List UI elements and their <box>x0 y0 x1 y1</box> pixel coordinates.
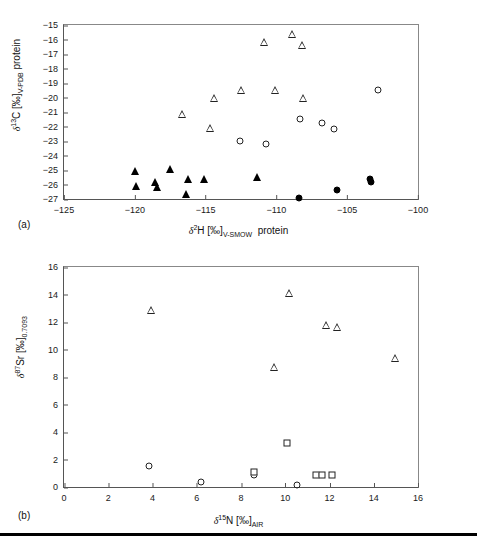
data-point-open-triangle <box>288 30 296 38</box>
plot-area-a: −15−16−17−18−19−20−21−22−23−24−25−26−27−… <box>63 24 419 200</box>
data-point-open-circle <box>198 479 205 486</box>
x-tick-label: 16 <box>413 487 423 503</box>
data-point-open-circle <box>297 116 304 123</box>
panel-label-b: (b) <box>18 510 30 521</box>
data-point-open-triangle <box>178 110 186 118</box>
x-tick-label: 2 <box>106 487 111 503</box>
data-point-open-triangle <box>260 38 268 46</box>
data-point-filled-triangle <box>166 165 174 173</box>
data-point-filled-triangle <box>253 173 261 181</box>
x-axis-label-a: δ2H [‰]V-SMOW protein <box>0 224 477 238</box>
x-tick-label: −125 <box>54 199 74 215</box>
y-tick-label: 16 <box>48 263 64 272</box>
data-point-open-triangle <box>237 86 245 94</box>
x-tick-label: −120 <box>125 199 145 215</box>
figure-container: −15−16−17−18−19−20−21−22−23−24−25−26−27−… <box>0 0 477 551</box>
data-point-open-triangle <box>270 363 278 371</box>
data-point-open-circle <box>146 463 153 470</box>
y-tick-label: −26 <box>43 180 64 189</box>
y-tick-label: −22 <box>43 122 64 131</box>
y-tick-label: −19 <box>43 79 64 88</box>
y-tick-label: −15 <box>43 21 64 30</box>
y-tick-label: 10 <box>48 345 64 354</box>
y-tick-label: 12 <box>48 318 64 327</box>
y-tick-label: −23 <box>43 137 64 146</box>
y-tick-label: −17 <box>43 50 64 59</box>
x-tick-label: 0 <box>61 487 66 503</box>
data-point-open-square <box>251 468 258 475</box>
data-point-open-circle <box>236 138 243 145</box>
y-tick-label: 2 <box>53 455 64 464</box>
data-point-open-circle <box>263 140 270 147</box>
x-tick-label: 6 <box>194 487 199 503</box>
y-tick-label: −24 <box>43 151 64 160</box>
data-point-open-circle <box>375 87 382 94</box>
y-tick-label: 14 <box>48 290 64 299</box>
x-tick-label: 4 <box>150 487 155 503</box>
data-point-open-triangle <box>322 321 330 329</box>
x-tick-label: −115 <box>196 199 216 215</box>
x-axis-label-b: δ15N [‰]AIR <box>0 514 477 528</box>
data-point-open-circle <box>318 119 325 126</box>
y-tick-label: −16 <box>43 35 64 44</box>
data-point-open-square <box>318 471 325 478</box>
y-axis-label-b: δ87Sr [‰]0.7093 <box>14 277 28 417</box>
x-tick-label: −110 <box>267 199 287 215</box>
data-point-open-triangle <box>299 94 307 102</box>
y-axis-label-a: δ13C [‰]V-PDB protein <box>10 15 24 155</box>
panel-b: 02468101214160246810121416 δ87Sr [‰]0.70… <box>0 240 477 530</box>
data-point-open-triangle <box>210 94 218 102</box>
y-tick-label: −21 <box>43 108 64 117</box>
data-point-open-triangle <box>333 323 341 331</box>
x-tick-label: 14 <box>369 487 379 503</box>
plot-area-b: 02468101214160246810121416 <box>63 266 419 488</box>
x-tick-label: 8 <box>238 487 243 503</box>
data-point-filled-circle <box>333 187 340 194</box>
panel-a: −15−16−17−18−19−20−21−22−23−24−25−26−27−… <box>0 0 477 240</box>
data-point-open-triangle <box>391 354 399 362</box>
data-point-filled-triangle <box>153 183 161 191</box>
data-point-filled-triangle <box>132 182 140 190</box>
data-point-open-triangle <box>298 41 306 49</box>
data-point-open-triangle <box>285 289 293 297</box>
data-point-filled-circle <box>367 179 374 186</box>
y-tick-label: −25 <box>43 166 64 175</box>
data-point-open-circle <box>294 481 301 488</box>
data-point-filled-triangle <box>200 175 208 183</box>
data-point-filled-triangle <box>131 167 139 175</box>
panel-label-a: (a) <box>18 219 30 230</box>
data-point-open-square <box>284 440 291 447</box>
y-tick-label: 6 <box>53 400 64 409</box>
y-tick-label: −20 <box>43 93 64 102</box>
data-point-open-triangle <box>206 124 214 132</box>
x-tick-label: 12 <box>324 487 334 503</box>
data-point-open-square <box>328 471 335 478</box>
data-point-filled-circle <box>296 195 303 202</box>
data-point-filled-triangle <box>182 190 190 198</box>
x-tick-label: −105 <box>337 199 357 215</box>
data-point-open-triangle <box>271 86 279 94</box>
data-point-open-circle <box>331 126 338 133</box>
data-point-filled-triangle <box>184 175 192 183</box>
y-tick-label: 4 <box>53 428 64 437</box>
x-tick-label: −100 <box>408 199 428 215</box>
x-tick-label: 10 <box>280 487 290 503</box>
y-tick-label: −18 <box>43 64 64 73</box>
y-tick-label: 8 <box>53 373 64 382</box>
data-point-open-triangle <box>147 306 155 314</box>
footer-rule <box>0 533 477 536</box>
